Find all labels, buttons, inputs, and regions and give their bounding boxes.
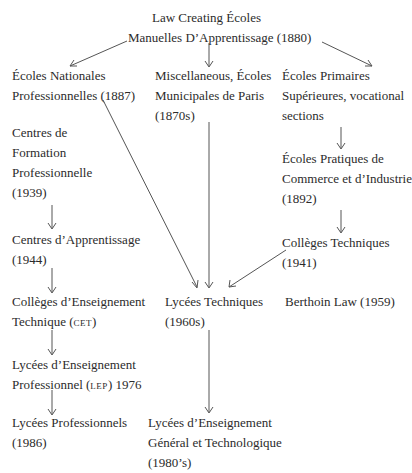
node-centres-formation: Centres de Formation Professionnelle (19… xyxy=(12,123,92,203)
node-line-part: Technique ( xyxy=(12,314,74,329)
node-line: (1944) xyxy=(12,250,140,270)
node-line: Écoles Pratiques de xyxy=(282,149,412,169)
node-line: Écoles Nationales xyxy=(12,66,135,86)
node-line: Technique (cet) xyxy=(12,312,145,332)
node-line: (1870s) xyxy=(155,106,271,126)
node-law-1880: Law Creating Écoles Manuelles D’Apprenti… xyxy=(128,8,311,48)
abbreviation: lep xyxy=(90,377,108,392)
node-line: Professionnelles (1887) xyxy=(12,86,135,106)
node-line: Lycées Techniques xyxy=(165,292,263,312)
node-line: Law Creating Écoles xyxy=(128,8,311,28)
node-berthoin-law: Berthoin Law (1959) xyxy=(285,292,395,312)
node-line: Écoles Primaires xyxy=(282,66,404,86)
node-ecoles-pratiques: Écoles Pratiques de Commerce et d’Indust… xyxy=(282,149,412,209)
node-line: (1939) xyxy=(12,183,92,203)
edge-pratiques-to-colleges-techniques xyxy=(337,210,345,233)
node-line: Miscellaneous, Écoles xyxy=(155,66,271,86)
node-line: Centres de xyxy=(12,123,92,143)
node-line: Professionnel (lep) 1976 xyxy=(12,375,141,395)
node-line: (1960s) xyxy=(165,312,263,332)
edge-lycees-techniques-to-general xyxy=(205,330,213,413)
node-line: Supérieures, vocational xyxy=(282,86,404,106)
node-line: Professionnelle xyxy=(12,163,92,183)
node-miscellaneous: Miscellaneous, Écoles Municipales de Par… xyxy=(155,66,271,126)
node-line: Formation xyxy=(12,143,92,163)
edge-law-to-ecoles-primaires xyxy=(322,42,372,66)
node-line: sections xyxy=(282,106,404,126)
edge-primaires-to-pratiques xyxy=(337,127,345,149)
edge-apprentissage-to-colleges-enseignement xyxy=(48,268,56,293)
node-line: Lycées Professionnels xyxy=(12,413,127,433)
node-line: (1980’s) xyxy=(148,453,282,473)
node-line: Collèges Techniques xyxy=(282,233,390,253)
abbreviation: cet xyxy=(74,314,93,329)
node-line: Berthoin Law (1959) xyxy=(285,292,395,312)
node-line-part: Professionnel ( xyxy=(12,377,90,392)
node-line: (1986) xyxy=(12,433,127,453)
node-line: Commerce et d’Industrie xyxy=(282,169,412,189)
edge-colleges-techniques-to-lycees-techniques xyxy=(229,250,286,287)
node-line: (1941) xyxy=(282,253,390,273)
node-line: Lycées d’Enseignement xyxy=(12,355,141,375)
edge-miscellaneous-to-lycees-techniques xyxy=(205,122,213,288)
node-line-part: ) 1976 xyxy=(108,377,142,392)
node-lycees-ens-general: Lycées d’Enseignement Général et Technol… xyxy=(148,413,282,473)
node-lycees-techniques: Lycées Techniques (1960s) xyxy=(165,292,263,332)
node-colleges-enseignement: Collèges d’Enseignement Technique (cet) xyxy=(12,292,145,332)
node-line: Collèges d’Enseignement xyxy=(12,292,145,312)
node-lycees-ens-prof: Lycées d’Enseignement Professionnel (lep… xyxy=(12,355,141,395)
node-line: Municipales de Paris xyxy=(155,86,271,106)
node-centres-apprentissage: Centres d’Apprentissage (1944) xyxy=(12,230,140,270)
node-lycees-professionnels: Lycées Professionnels (1986) xyxy=(12,413,127,453)
edge-formation-to-apprentissage xyxy=(48,205,56,229)
edge-cet-to-lep xyxy=(48,330,56,355)
node-line-part: ) xyxy=(92,314,96,329)
edge-law-to-ecoles-nationales xyxy=(70,41,127,66)
node-line: Lycées d’Enseignement xyxy=(148,413,282,433)
node-line: Centres d’Apprentissage xyxy=(12,230,140,250)
node-ecoles-primaires: Écoles Primaires Supérieures, vocational… xyxy=(282,66,404,126)
node-line: (1892) xyxy=(282,189,412,209)
node-ecoles-nationales: Écoles Nationales Professionnelles (1887… xyxy=(12,66,135,106)
node-line: Manuelles D’Apprentissage (1880) xyxy=(128,28,311,48)
node-line: Général et Technologique xyxy=(148,433,282,453)
node-colleges-techniques: Collèges Techniques (1941) xyxy=(282,233,390,273)
